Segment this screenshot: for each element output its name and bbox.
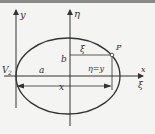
x-dimension-label: x	[59, 82, 64, 92]
vertex-subscript: 2	[7, 69, 12, 76]
x-axis-label: x	[141, 65, 146, 74]
ellipse-diagram: y η V 2 a b ξ P η=y x x ξ	[0, 0, 155, 134]
point-p-label: P	[115, 43, 122, 52]
eta-eq-y-label: η=y	[88, 64, 104, 73]
semi-major-label: a	[39, 65, 44, 75]
point-p	[110, 53, 114, 57]
y-axis-label: y	[19, 9, 26, 20]
xi-segment-label: ξ	[80, 44, 86, 54]
xi-axis-label: ξ	[138, 80, 144, 90]
eta-axis-label: η	[74, 8, 80, 19]
semi-minor-label: b	[61, 54, 67, 64]
